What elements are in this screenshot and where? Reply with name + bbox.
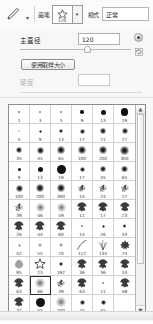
brush-preset-cell[interactable]: 200 xyxy=(30,181,51,200)
brush-preset-cell[interactable]: 27 xyxy=(114,124,135,143)
brush-preset-cell[interactable]: 300 xyxy=(51,181,72,200)
brush-thumbnail xyxy=(93,201,113,213)
brush-preset-cell[interactable]: 17 xyxy=(72,124,93,143)
brush-preset-cell[interactable]: 39 xyxy=(51,276,72,295)
brush-preset-cell[interactable]: 134 xyxy=(93,238,114,257)
brush-preset-cell[interactable]: 9 xyxy=(30,124,51,143)
brush-preset-cell[interactable]: 26 xyxy=(9,219,30,238)
brush-preset-cell[interactable]: 48 xyxy=(114,276,135,295)
brush-preset-cell[interactable]: 27 xyxy=(114,181,135,200)
brush-preset-cell[interactable]: 33 xyxy=(114,219,135,238)
brush-preset-cell[interactable]: 63 xyxy=(72,276,93,295)
brush-preset-cell[interactable]: 95 xyxy=(9,257,30,276)
brush-thumbnail xyxy=(72,239,92,251)
brush-preset-cell[interactable]: 13 xyxy=(51,124,72,143)
scrollbar-thumb[interactable] xyxy=(137,114,144,264)
brush-preset-cell[interactable]: 17 xyxy=(72,162,93,181)
master-diameter-slider-track[interactable] xyxy=(20,49,131,50)
leaf-brush-icon xyxy=(13,220,25,232)
brush-preset-cell[interactable]: 24 xyxy=(93,181,114,200)
brush-preset-cell[interactable]: 19 xyxy=(114,105,135,124)
faint-round-brush-icon xyxy=(57,203,66,212)
leaf-brush-icon xyxy=(76,201,88,213)
brush-preset-cell[interactable]: 14 xyxy=(72,181,93,200)
brush-preset-cell[interactable]: 21 xyxy=(93,124,114,143)
brush-preset-cell[interactable]: 5 xyxy=(51,105,72,124)
brush-preset-cell[interactable]: 11 xyxy=(72,200,93,219)
brush-preset-cell[interactable]: 3 xyxy=(30,105,51,124)
brush-preset-cell[interactable]: 65 xyxy=(114,162,135,181)
brush-preset-cell[interactable]: 200 xyxy=(93,143,114,162)
px-options-button[interactable] xyxy=(134,33,143,42)
master-diameter-slider-thumb[interactable] xyxy=(84,45,91,53)
brush-preset-dropdown-icon[interactable]: ▾ xyxy=(73,5,83,24)
brush-preset-size-label: 9 xyxy=(30,137,50,142)
texture-brush-icon xyxy=(76,182,88,194)
faint-round-brush-icon xyxy=(35,278,45,288)
brush-thumbnail xyxy=(9,296,29,308)
brush-preset-cell[interactable]: 45 xyxy=(30,143,51,162)
master-diameter-input[interactable]: 120 xyxy=(78,33,120,45)
brush-preset-cell[interactable]: 44 xyxy=(30,219,51,238)
brush-preset-cell[interactable]: 192 xyxy=(51,257,72,276)
brush-preset-cell[interactable]: 13 xyxy=(30,162,51,181)
brush-preset-cell[interactable]: 14 xyxy=(72,219,93,238)
brush-preset-size-label: 35 xyxy=(9,156,29,161)
brush-preset-cell[interactable]: 9 xyxy=(72,105,93,124)
use-sample-size-button[interactable]: 使用取样大小 xyxy=(21,59,75,70)
brush-preset-cell[interactable]: 26 xyxy=(93,219,114,238)
brush-preset-cell[interactable]: 60 xyxy=(51,219,72,238)
brush-preset-cell[interactable]: 63 xyxy=(9,276,30,295)
brush-preset-cell[interactable]: 100 xyxy=(9,181,30,200)
master-diameter-row: 主直径 120 xyxy=(0,32,153,48)
brush-preset-cell[interactable]: 23 xyxy=(30,257,51,276)
brush-preset-cell[interactable]: 300 xyxy=(114,143,135,162)
brush-preset-cell[interactable]: 39 xyxy=(9,200,30,219)
brush-preset-cell[interactable]: 9 xyxy=(9,162,30,181)
brush-preset-cell[interactable]: 13 xyxy=(93,105,114,124)
brush-preset-cell[interactable]: 74 xyxy=(114,238,135,257)
hardness-input[interactable] xyxy=(78,74,110,86)
brush-preset-cell[interactable]: 36 xyxy=(93,257,114,276)
mode-select[interactable]: 正常 xyxy=(102,7,149,21)
brush-preset-cell[interactable]: 19 xyxy=(51,162,72,181)
brush-preset-cell[interactable]: 112 xyxy=(72,238,93,257)
brush-preset-cell[interactable]: 5 xyxy=(9,124,30,143)
brush-preset-size-label: 27 xyxy=(114,137,135,142)
brush-preset-cell[interactable]: 46 xyxy=(30,200,51,219)
brush-preset-cell[interactable]: 17 xyxy=(93,200,114,219)
brush-preset-thumbnail[interactable]: 120 xyxy=(52,5,73,24)
reset-button[interactable] xyxy=(134,48,143,56)
brush-tool-icon[interactable] xyxy=(4,4,24,24)
scroll-up-arrow-icon[interactable]: ▲ xyxy=(136,105,145,114)
brush-preset-cell[interactable]: 100 xyxy=(72,143,93,162)
brush-preset-size-label: 3 xyxy=(30,118,50,123)
brush-thumbnail xyxy=(72,106,92,118)
brush-preset-cell[interactable]: 42 xyxy=(9,238,30,257)
brush-preset-cell[interactable]: 70 xyxy=(51,238,72,257)
brush-preset-size-label: 9 xyxy=(9,175,29,180)
brush-preset-size-label: 39 xyxy=(51,289,71,294)
brush-preset-cell[interactable]: 33 xyxy=(114,257,135,276)
brush-preset-cell[interactable]: 55 xyxy=(30,238,51,257)
brush-preset-cell[interactable]: 66 xyxy=(30,276,51,295)
brush-preset-cell[interactable]: 59 xyxy=(51,200,72,219)
soft-round-brush-icon xyxy=(36,184,44,192)
brush-preset-grid[interactable]: 1359131959131721273545651002003009131917… xyxy=(9,105,135,314)
stroke-brush-icon xyxy=(76,239,88,251)
brush-preset-cell[interactable]: 11 xyxy=(93,276,114,295)
brush-preset-size-label: 200 xyxy=(93,156,113,161)
soft-round-brush-icon xyxy=(80,129,85,134)
brush-grid-scrollbar[interactable]: ▲ ▼ xyxy=(135,105,145,314)
hardness-slider-track[interactable] xyxy=(20,92,142,93)
brush-preset-cell[interactable]: 65 xyxy=(51,143,72,162)
tool-preset-caret-icon[interactable]: ▾ xyxy=(24,7,31,21)
brush-preset-size-label: 70 xyxy=(51,251,71,256)
brush-preset-cell[interactable]: 35 xyxy=(9,143,30,162)
soft-round-brush-icon xyxy=(57,146,65,154)
brush-preset-cell[interactable]: 36 xyxy=(72,257,93,276)
brush-preset-cell[interactable]: 23 xyxy=(114,200,135,219)
brush-preset-cell[interactable]: 45 xyxy=(93,162,114,181)
brush-preset-size-label: 11 xyxy=(72,213,92,218)
brush-preset-cell[interactable]: 1 xyxy=(9,105,30,124)
